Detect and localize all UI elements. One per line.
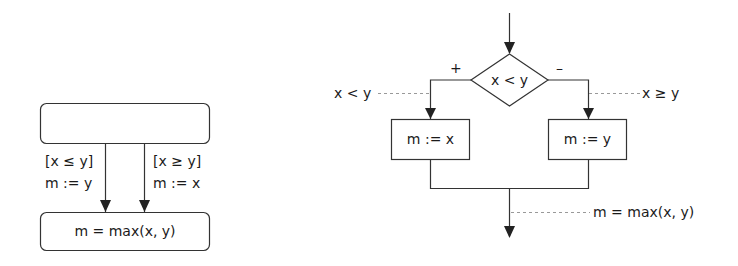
- left-guard-label: [x ≤ y]: [45, 153, 93, 169]
- assign-y-label: m := y: [548, 131, 627, 147]
- right-guard-label: [x ≥ y]: [153, 153, 201, 169]
- top-state-box: [41, 104, 210, 144]
- left-action-label: m := y: [45, 175, 92, 191]
- merge-line: [431, 160, 589, 189]
- minus-branch-line: [548, 80, 589, 119]
- left-annotation-label: x < y: [334, 85, 371, 101]
- result-annotation-label: m = max(x, y): [593, 204, 694, 220]
- minus-label: –: [556, 60, 563, 76]
- plus-branch-line: [431, 80, 472, 119]
- plus-label: +: [450, 60, 462, 76]
- right-annotation-label: x ≥ y: [642, 85, 679, 101]
- assign-x-label: m := x: [391, 131, 470, 147]
- decision-label: x < y: [471, 72, 548, 88]
- result-state-label: m = max(x, y): [40, 223, 210, 239]
- right-action-label: m := x: [153, 175, 200, 191]
